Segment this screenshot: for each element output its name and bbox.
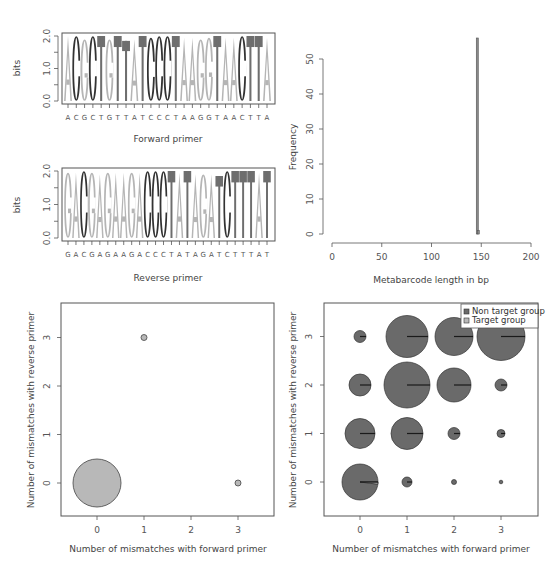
sequence-base-label: T bbox=[240, 251, 246, 259]
sequence-base-label: C bbox=[81, 251, 86, 259]
logo-letter-c bbox=[90, 37, 97, 100]
logo-letter-c bbox=[164, 37, 171, 100]
sequence-base-label: C bbox=[148, 114, 153, 122]
sequence-base-label: A bbox=[209, 251, 214, 259]
logo-letter-c bbox=[224, 172, 231, 237]
pie-plot-xlabel: Number of mismatches with forward primer bbox=[332, 544, 530, 554]
sequence-base-label: C bbox=[74, 114, 79, 122]
logo-letter-a bbox=[96, 174, 104, 238]
target-point bbox=[141, 335, 147, 341]
forward-logo-xlabel: Forward primer bbox=[134, 134, 203, 144]
reverse-logo-letters bbox=[65, 171, 271, 238]
logo-letter-a bbox=[136, 173, 144, 238]
sequence-base-label: G bbox=[198, 114, 203, 122]
logo-letter-t bbox=[168, 171, 176, 238]
pie-point bbox=[345, 419, 375, 449]
sequence-base-label: T bbox=[247, 114, 253, 122]
logo-letter-a bbox=[207, 174, 215, 238]
sequence-base-label: G bbox=[65, 251, 70, 259]
sequence-base-label: G bbox=[201, 251, 206, 259]
y-tick-label: 1 bbox=[42, 432, 52, 438]
logo-letter-a bbox=[130, 39, 138, 101]
forward-primer-logo: 0.01.02.0 ACGCTGTTATCCCTAAGGTAACTTA bits… bbox=[12, 29, 275, 144]
sequence-base-label: A bbox=[190, 114, 195, 122]
x-tick-label: 50 bbox=[376, 252, 388, 262]
sequence-base-label: T bbox=[216, 251, 222, 259]
y-tick-label: 1.0 bbox=[42, 197, 52, 212]
logo-letter-t bbox=[247, 171, 255, 238]
pie-point bbox=[384, 362, 430, 408]
reverse-primer-logo: 0.01.02.0 GACGAGAAGACCCTATAGATCTTTAT bit… bbox=[12, 164, 275, 283]
histogram-bar bbox=[477, 231, 479, 235]
sequence-base-label: G bbox=[206, 114, 211, 122]
sequence-base-label: G bbox=[89, 251, 94, 259]
sequence-base-label: C bbox=[165, 114, 170, 122]
mismatch-target-plot: 01230123 Number of mismatches with rever… bbox=[26, 303, 274, 554]
y-tick-label: 2.0 bbox=[42, 164, 52, 179]
sequence-base-label: T bbox=[173, 114, 179, 122]
mismatch-pie-plot: 01230123 Non target group Target group N… bbox=[288, 303, 545, 554]
sequence-base-label: A bbox=[193, 251, 198, 259]
histogram-xlabel: Metabarcode length in bp bbox=[373, 275, 489, 285]
sequence-base-label: A bbox=[182, 114, 187, 122]
y-tick-label: 2 bbox=[42, 383, 52, 389]
histogram-ylabel: Frequency bbox=[288, 123, 298, 170]
sequence-base-label: T bbox=[264, 251, 270, 259]
sequence-base-label: T bbox=[98, 114, 104, 122]
sequence-base-label: A bbox=[137, 251, 142, 259]
logo-letter-t bbox=[263, 171, 271, 238]
logo-letter-a bbox=[263, 38, 271, 101]
sequence-base-label: A bbox=[265, 114, 270, 122]
y-tick-label: 2.0 bbox=[42, 29, 52, 44]
logo-letter-c bbox=[73, 37, 80, 100]
sequence-base-label: C bbox=[153, 251, 158, 259]
logo-letter-t bbox=[122, 41, 130, 101]
x-tick-label: 3 bbox=[235, 525, 241, 535]
pie-point bbox=[402, 477, 412, 487]
logo-letter-t bbox=[215, 176, 223, 238]
sequence-base-label: A bbox=[66, 114, 71, 122]
length-histogram: 05010015020001020304050 Frequency Metaba… bbox=[288, 38, 540, 285]
logo-letter-a bbox=[188, 38, 196, 101]
logo-letter-g bbox=[129, 174, 136, 237]
logo-letter-a bbox=[112, 173, 120, 238]
logo-letter-c bbox=[239, 37, 246, 100]
y-tick-label: 0.0 bbox=[42, 231, 52, 246]
logo-letter-c bbox=[145, 172, 152, 237]
pie-point bbox=[391, 418, 423, 450]
forward-logo-x-axis: ACGCTGTTATCCCTAAGGTAACTTA bbox=[66, 104, 270, 122]
sequence-base-label: C bbox=[90, 114, 95, 122]
y-tick-label: 3 bbox=[304, 334, 314, 340]
logo-letter-t bbox=[231, 171, 239, 238]
x-tick-label: 2 bbox=[451, 525, 457, 535]
target-point bbox=[73, 459, 121, 507]
sequence-base-label: C bbox=[161, 251, 166, 259]
y-tick-label: 1.0 bbox=[42, 61, 52, 76]
x-tick-label: 200 bbox=[522, 252, 539, 262]
x-tick-label: 1 bbox=[141, 525, 147, 535]
logo-letter-c bbox=[156, 37, 163, 100]
logo-letter-g bbox=[105, 174, 112, 237]
y-tick-label: 10 bbox=[305, 193, 315, 205]
pie-plot-legend: Non target group Target group bbox=[461, 304, 545, 328]
sequence-base-label: T bbox=[248, 251, 254, 259]
pie-point bbox=[452, 480, 457, 485]
sequence-base-label: T bbox=[139, 114, 145, 122]
logo-letter-t bbox=[246, 36, 254, 101]
target-point bbox=[235, 480, 241, 486]
sequence-base-label: A bbox=[231, 114, 236, 122]
logo-letter-t bbox=[184, 171, 192, 238]
logo-letter-c bbox=[153, 172, 160, 237]
pie-point bbox=[349, 374, 371, 396]
logo-letter-a bbox=[192, 174, 200, 238]
pie-point bbox=[499, 480, 503, 484]
x-tick-label: 100 bbox=[423, 252, 440, 262]
logo-letter-g bbox=[82, 40, 89, 100]
logo-letter-g bbox=[206, 39, 213, 100]
figure-canvas: 0.01.02.0 ACGCTGTTATCCCTAAGGTAACTTA bits… bbox=[0, 0, 560, 565]
sequence-base-label: G bbox=[82, 114, 87, 122]
y-tick-label: 40 bbox=[305, 88, 315, 100]
logo-letter-a bbox=[230, 38, 238, 101]
logo-letter-a bbox=[64, 36, 72, 101]
sequence-base-label: T bbox=[256, 114, 262, 122]
